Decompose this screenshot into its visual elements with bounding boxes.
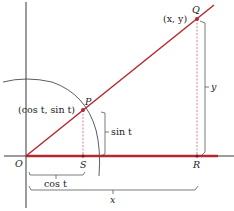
label-cos-t: cos t xyxy=(44,178,67,189)
point-P xyxy=(81,108,85,112)
label-S: S xyxy=(80,159,87,170)
label-P: P xyxy=(84,96,92,107)
point-R xyxy=(195,154,198,157)
label-x: x xyxy=(110,194,116,205)
label-sin-t: sin t xyxy=(111,126,132,137)
y-bracket xyxy=(200,21,205,156)
label-Q: Q xyxy=(192,4,200,15)
cos-t-bracket xyxy=(29,172,85,175)
label-Q-coords: (x, y) xyxy=(163,13,187,24)
point-Q xyxy=(195,17,199,21)
label-R: R xyxy=(192,159,200,170)
sin-t-bracket xyxy=(101,112,105,156)
point-S xyxy=(81,154,84,157)
label-P-coords: (cos t, sin t) xyxy=(18,104,75,115)
label-y: y xyxy=(210,81,217,92)
unit-circle-diagram: O S R P Q (cos t, sin t) (x, y) sin t y … xyxy=(0,0,234,211)
label-O: O xyxy=(15,158,23,169)
